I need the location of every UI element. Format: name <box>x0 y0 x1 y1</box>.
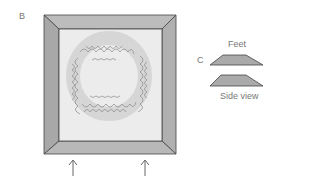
foot-top <box>210 55 263 65</box>
panel-c-label: C <box>197 55 204 65</box>
arrow-icon-left <box>69 160 77 176</box>
foot-side-view <box>210 75 263 86</box>
feet-label: Feet <box>228 39 246 49</box>
side-view-label: Side view <box>220 91 259 101</box>
arrow-icon-right <box>141 160 149 176</box>
